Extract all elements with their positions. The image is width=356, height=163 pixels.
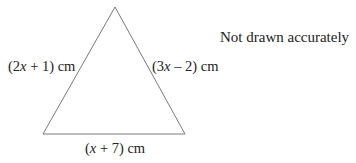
triangle-diagram (0, 0, 356, 163)
bottom-side-label: (x + 7) cm (85, 141, 145, 156)
right-side-label: (3x – 2) cm (152, 59, 218, 74)
not-drawn-accurately-note: Not drawn accurately (220, 30, 349, 45)
left-side-label: (2x + 1) cm (8, 59, 75, 74)
